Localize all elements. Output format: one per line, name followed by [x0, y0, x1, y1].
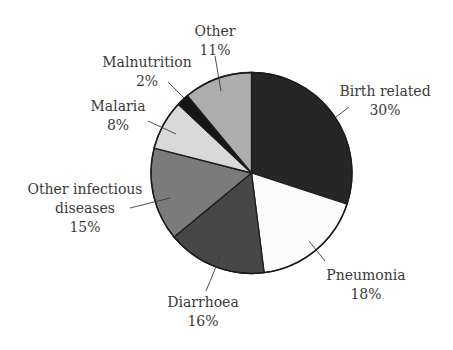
label-birth-related: Birth related30% — [339, 83, 430, 118]
pie-chart: Birth related30%Pneumonia18%Diarrhoea16%… — [0, 0, 453, 350]
leader-line-birth-related — [336, 107, 349, 117]
label-other: Other11% — [194, 23, 235, 58]
label-malnutrition: Malnutrition2% — [102, 54, 192, 89]
leader-line-malnutrition — [168, 82, 184, 98]
label-malaria: Malaria8% — [90, 98, 145, 133]
pie-slices — [151, 73, 352, 274]
label-other-infectious-diseases: Other infectiousdiseases15% — [27, 181, 142, 235]
label-pneumonia: Pneumonia18% — [326, 267, 405, 302]
label-diarrhoea: Diarrhoea16% — [167, 294, 239, 329]
